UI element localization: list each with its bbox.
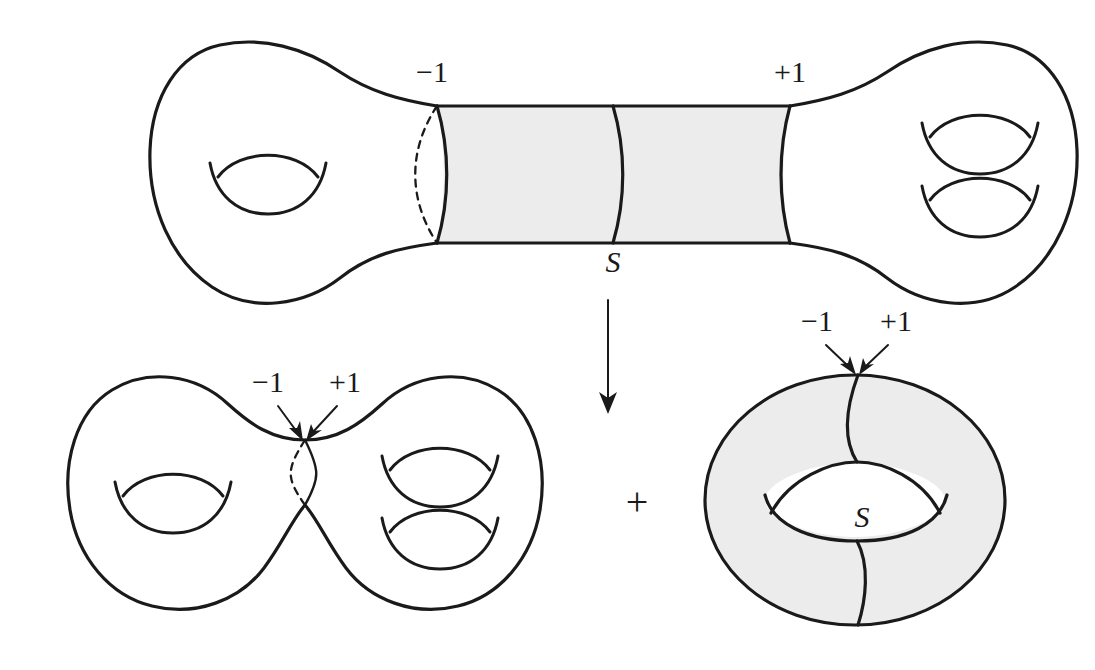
bottom-left-label-plus-one: +1 — [329, 365, 361, 398]
plus-operator: + — [626, 479, 649, 524]
top-label-minus-one: −1 — [416, 55, 448, 88]
surface-decomposition-diagram: −1 +1 S — [0, 0, 1095, 670]
bottom-left-label-minus-one: −1 — [252, 365, 284, 398]
figure-root: −1 +1 S — [0, 0, 1095, 670]
bottom-right-label-s: S — [855, 500, 870, 533]
top-label-s: S — [606, 245, 621, 278]
top-label-plus-one: +1 — [774, 55, 806, 88]
bottom-right-label-minus-one: −1 — [801, 304, 833, 337]
bottom-right-label-plus-one: +1 — [880, 304, 912, 337]
cylinder-shaded-band — [437, 106, 790, 243]
